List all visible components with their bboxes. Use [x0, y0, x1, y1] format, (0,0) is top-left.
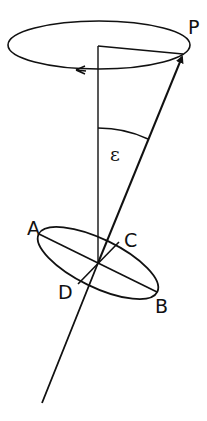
- label-c: C: [124, 229, 137, 251]
- rotation-arrow-icon: [76, 66, 86, 74]
- label-epsilon: ε: [110, 143, 120, 165]
- precession-diagram: P ε A C D B: [0, 0, 207, 421]
- epsilon-angle-arc: [98, 128, 148, 139]
- radius-line: [98, 46, 183, 54]
- label-p: P: [188, 16, 199, 38]
- precession-ellipse: [8, 21, 190, 69]
- label-a: A: [27, 217, 40, 239]
- label-b: B: [155, 295, 168, 317]
- label-d: D: [58, 281, 73, 303]
